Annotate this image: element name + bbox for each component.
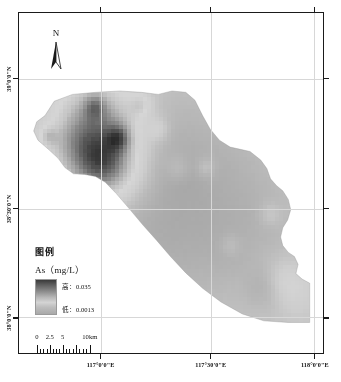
legend-ramp-row: 高：0.035 低：0.0013 [35,279,153,315]
legend-ramp-labels: 高：0.035 低：0.0013 [62,279,153,315]
scale-bar-label: 2.5 [46,333,54,340]
scale-bar-tick [76,345,77,354]
axis-tick-left [13,208,18,209]
legend-high-label: 高：0.035 [62,281,91,291]
graticule-line-horizontal [19,79,323,80]
scale-bar-tick [86,349,87,354]
axis-tick-bottom [100,354,101,359]
legend-title: 图例 [35,245,153,258]
scale-bar-tick [53,349,54,354]
scale-bar-label: 5 [61,333,64,340]
scale-bar-tick [37,345,38,354]
axis-tick-left [13,78,18,79]
x-axis-label: 117°30'0"E [195,361,226,368]
axis-tick-top [314,7,315,12]
scale-bar-tick [43,349,44,354]
north-arrow-icon: N [43,29,69,75]
scale-bar-tick [56,349,57,354]
scale-bar-tick [69,349,70,354]
legend-low-label: 低：0.0013 [62,304,94,314]
scale-bar-graphic [37,345,157,354]
scale-bar-tick [50,345,51,354]
scale-bar-tick [40,349,41,354]
x-axis-label: 117°0'0"E [87,361,115,368]
scale-bar-tick [63,345,64,354]
axis-tick-right [324,78,329,79]
scale-bar-tick [79,349,80,354]
axis-tick-right [324,317,329,318]
graticule-line-vertical [314,13,315,353]
y-axis-label: 38°30'0"N [5,194,12,222]
legend: 图例 As（mg/L） 高：0.035 低：0.0013 [35,245,153,315]
scale-bar-labels: 02.5510km [37,333,157,344]
axis-tick-right [324,208,329,209]
legend-color-ramp [35,279,57,315]
scale-bar: 02.5510km [37,333,157,354]
north-arrow-label: N [53,28,60,38]
graticule-line-horizontal [19,209,323,210]
scale-bar-tick [47,349,48,354]
scale-bar-tick [73,349,74,354]
scale-bar-label: 10km [82,333,97,340]
graticule-line-vertical [211,13,212,353]
y-axis-label: 38°0'0"N [5,305,12,330]
legend-subtitle: As（mg/L） [35,263,153,276]
graticule-line-horizontal [19,317,323,318]
axis-tick-top [210,7,211,12]
scale-bar-baseline [37,353,117,354]
map-figure: N 图例 As（mg/L） 高：0.035 低：0.0013 02.5510km [0,0,341,382]
axis-tick-bottom [314,354,315,359]
y-axis-label: 39°0'0"N [5,66,12,91]
axis-tick-bottom [210,354,211,359]
map-neatline-frame: N 图例 As（mg/L） 高：0.035 低：0.0013 02.5510km [18,12,324,354]
scale-bar-tick [90,345,91,354]
scale-bar-tick [59,349,60,354]
scale-bar-tick [83,349,84,354]
scale-bar-label: 0 [35,333,38,340]
x-axis-label: 118°0'0"E [301,361,329,368]
axis-tick-left [13,317,18,318]
scale-bar-tick [66,349,67,354]
axis-tick-top [100,7,101,12]
